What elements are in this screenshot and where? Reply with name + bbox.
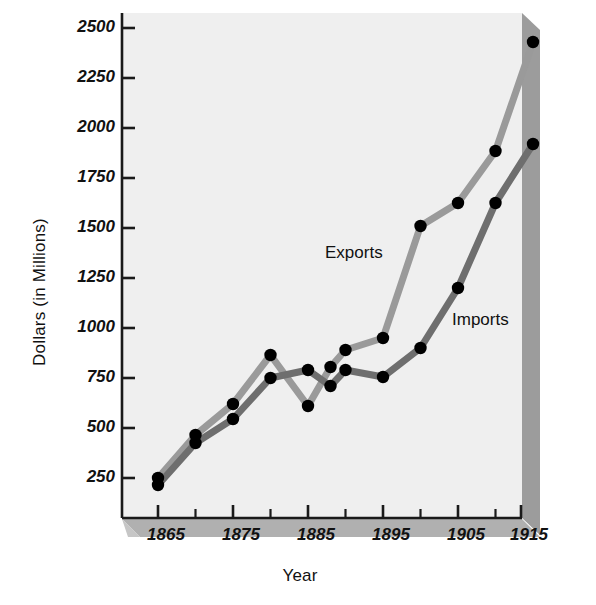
plot-right-shadow-panel [522,13,540,535]
data-point-marker [324,361,336,373]
data-point-marker [302,400,314,412]
ytick-label-1000: 1000 [45,317,115,337]
data-point-marker [527,138,539,150]
data-point-marker [264,349,276,361]
ytick-label-1750: 1750 [45,167,115,187]
series-annotation-exports: Exports [325,243,383,263]
data-point-marker [339,364,351,376]
plot-background-panel [122,13,522,518]
data-point-marker [339,344,351,356]
data-point-marker [414,342,426,354]
line-chart-canvas [0,0,596,605]
data-point-marker [489,145,501,157]
ytick-label-500: 500 [45,417,115,437]
xtick-label-1915: 1915 [494,525,564,545]
data-point-marker [414,220,426,232]
data-point-marker [324,380,336,392]
data-point-marker [302,364,314,376]
data-point-marker [377,371,389,383]
xtick-label-1895: 1895 [356,525,426,545]
ytick-label-750: 750 [45,367,115,387]
data-point-marker [527,36,539,48]
data-point-marker [489,197,501,209]
data-point-marker [377,332,389,344]
data-point-marker [189,437,201,449]
series-annotation-imports: Imports [452,310,509,330]
ytick-label-1500: 1500 [45,217,115,237]
ytick-label-2250: 2250 [45,67,115,87]
xtick-label-1875: 1875 [206,525,276,545]
ytick-label-2000: 2000 [45,117,115,137]
data-point-marker [152,479,164,491]
ytick-label-250: 250 [45,467,115,487]
xtick-label-1885: 1885 [281,525,351,545]
xtick-label-1905: 1905 [431,525,501,545]
data-point-marker [227,413,239,425]
ytick-label-2500: 2500 [45,17,115,37]
data-point-marker [452,197,464,209]
chart-figure: 2500 2250 2000 1750 1500 1250 1000 750 5… [0,0,596,605]
data-point-marker [452,282,464,294]
y-axis-title: Dollars (in Millions) [30,162,50,422]
ytick-label-1250: 1250 [45,267,115,287]
data-point-marker [264,372,276,384]
xtick-label-1865: 1865 [131,525,201,545]
x-axis-title: Year [200,566,400,586]
data-point-marker [227,398,239,410]
